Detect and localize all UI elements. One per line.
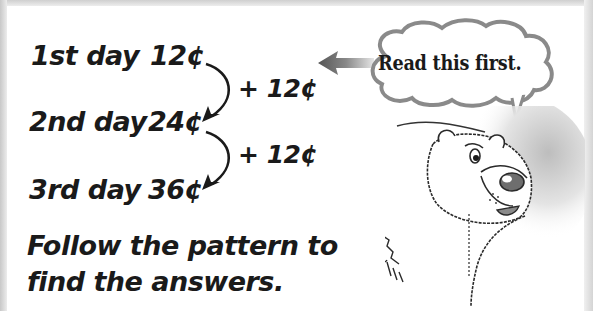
instruction-line-2: find the answers. <box>27 264 284 300</box>
amount-2: 24¢ <box>148 106 203 137</box>
day-label-2: 2nd day <box>29 106 147 137</box>
increment-label-2: + 12¢ <box>238 140 317 169</box>
day-label-1: 1st day <box>31 40 139 71</box>
speech-bubble-text: Read this first. <box>378 50 521 75</box>
instruction-line-1: Follow the pattern to <box>27 228 338 264</box>
amount-3: 36¢ <box>148 174 203 205</box>
amount-1: 12¢ <box>150 40 205 71</box>
polar-bear-illustration <box>385 106 585 306</box>
day-label-3: 3rd day <box>29 174 141 205</box>
frame-right <box>584 0 593 311</box>
frame-left <box>0 0 7 311</box>
increment-label-1: + 12¢ <box>238 74 317 103</box>
frame-top <box>0 0 593 6</box>
